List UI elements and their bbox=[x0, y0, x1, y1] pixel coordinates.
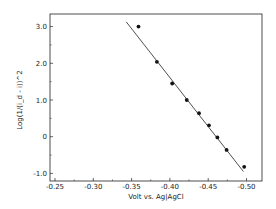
y-tick-label: 0 bbox=[43, 133, 47, 141]
y-tick-label: 1.0 bbox=[36, 97, 47, 105]
fit-line bbox=[126, 22, 243, 172]
plot-frame bbox=[50, 14, 262, 181]
data-point bbox=[242, 165, 246, 169]
y-tick-label: 2.0 bbox=[36, 60, 47, 68]
x-tick-label: -0.25 bbox=[46, 183, 64, 191]
y-tick-label: -1.0 bbox=[33, 170, 47, 178]
x-tick-label: -0.35 bbox=[123, 183, 141, 191]
x-tick-label: -0.45 bbox=[199, 183, 217, 191]
data-series bbox=[126, 22, 246, 172]
x-tick-label: -0.50 bbox=[237, 183, 255, 191]
chart: -0.25-0.30-0.35-0.40-0.45-0.50 3.02.01.0… bbox=[0, 0, 276, 209]
x-tick-label: -0.40 bbox=[161, 183, 179, 191]
x-axis-ticks: -0.25-0.30-0.35-0.40-0.45-0.50 bbox=[46, 178, 256, 191]
y-tick-label: 3.0 bbox=[36, 23, 47, 31]
x-tick-label: -0.30 bbox=[84, 183, 102, 191]
data-point bbox=[137, 25, 141, 29]
x-axis-label: Volt vs. Ag|AgCl bbox=[128, 193, 183, 201]
y-axis-label: Log(1/(i_d - i))^2 bbox=[16, 70, 24, 129]
